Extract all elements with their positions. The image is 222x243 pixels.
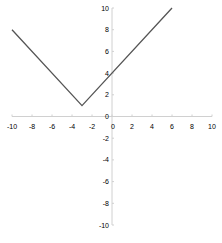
x-tick-label: -10 — [7, 123, 17, 130]
x-tick-label: -8 — [29, 123, 35, 130]
y-tick-label: 6 — [105, 48, 109, 55]
x-tick-label: 2 — [130, 123, 134, 130]
y-tick-label: -4 — [103, 156, 109, 163]
data-line — [12, 8, 172, 106]
x-tick-label: 0 — [111, 123, 115, 130]
x-tick-label: -2 — [89, 123, 95, 130]
y-tick-label: -2 — [103, 135, 109, 142]
y-tick-label: 8 — [105, 26, 109, 33]
y-tick-label: 2 — [105, 91, 109, 98]
x-tick-label: -6 — [49, 123, 55, 130]
x-tick-label: 10 — [208, 123, 216, 130]
x-tick-label: 6 — [170, 123, 174, 130]
chart: -10-8-6-4-22468100-10-8-6-4-20246810 — [0, 0, 222, 243]
y-tick-label: 10 — [101, 5, 109, 12]
x-tick-label: 4 — [150, 123, 154, 130]
y-tick-label: -10 — [99, 222, 109, 229]
y-tick-label: -6 — [103, 178, 109, 185]
x-tick-label: 8 — [190, 123, 194, 130]
x-tick-label: -4 — [69, 123, 75, 130]
y-tick-label: -8 — [103, 200, 109, 207]
y-tick-label: 0 — [105, 113, 109, 120]
series-line — [12, 8, 172, 106]
y-tick-label: 4 — [105, 70, 109, 77]
